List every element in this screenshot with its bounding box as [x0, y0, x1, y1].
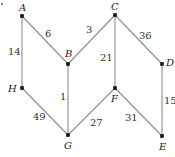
node-label-b: B: [64, 48, 72, 59]
node-g: [66, 133, 70, 137]
edge-weight-label: 49: [33, 111, 46, 122]
node-h: [20, 86, 24, 90]
edge-weight-label: 3: [86, 24, 92, 35]
node-a: [20, 14, 24, 18]
node-f: [113, 86, 117, 90]
node-d: [160, 62, 164, 66]
node-e: [160, 134, 164, 138]
weighted-graph-diagram: 61431362115492731 ABCDHGFE: [0, 0, 175, 157]
node-label-c: C: [111, 1, 119, 12]
node-label-a: A: [18, 2, 26, 13]
node-label-h: H: [7, 83, 17, 94]
edge-weight-label: 21: [100, 52, 113, 63]
edge-f-e: [115, 88, 162, 136]
node-label-g: G: [64, 140, 72, 151]
node-c: [113, 13, 117, 17]
edge-weight-label: 27: [90, 117, 103, 128]
edge-weight-label: 1: [60, 91, 66, 102]
node-label-e: E: [158, 141, 167, 152]
node-b: [66, 62, 70, 66]
edge-weight-label: 14: [8, 46, 21, 57]
edge-weight-label: 15: [164, 95, 175, 106]
stray-dot-marker: [1, 3, 3, 5]
edge-weight-label: 6: [45, 28, 51, 39]
node-label-d: D: [165, 57, 174, 68]
edge-weight-label: 31: [125, 112, 138, 123]
edge-weight-label: 36: [139, 30, 152, 41]
edge-a-b: [22, 16, 68, 64]
node-label-f: F: [110, 93, 119, 104]
